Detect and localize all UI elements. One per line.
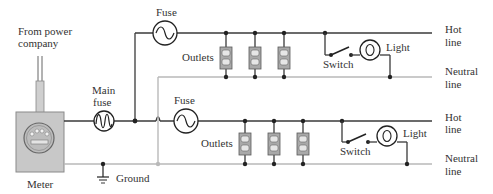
junction-dot: [133, 119, 138, 124]
fuse-top-icon: [153, 21, 177, 45]
outlets-top-label: Outlets: [182, 51, 214, 63]
from-power-label-1: From power: [18, 25, 72, 37]
ground-label: Ground: [116, 172, 150, 184]
outlets-bottom-label: Outlets: [201, 137, 233, 149]
switch-bottom-icon: [340, 119, 377, 144]
main-fuse-icon: [94, 111, 114, 131]
light-bottom-label: Light: [403, 127, 427, 139]
ground-icon: [97, 162, 109, 183]
neutral-line-bottom-label-2: line: [445, 165, 462, 177]
outlet-icon: [249, 31, 261, 79]
fuse-bottom-label: Fuse: [174, 94, 195, 106]
fuse-top-label: Fuse: [156, 6, 177, 18]
switch-top-label: Switch: [323, 58, 354, 70]
switch-bottom-label: Switch: [340, 145, 371, 157]
light-top-label: Light: [386, 41, 410, 53]
outlet-icon: [268, 119, 280, 166]
outlet-icon: [297, 119, 309, 166]
service-drop: [36, 56, 44, 113]
switch-top-icon: [323, 31, 360, 57]
main-fuse-label-2: fuse: [93, 96, 111, 108]
electric-meter-icon: [16, 112, 64, 172]
neutral-junction-dot: [156, 162, 160, 166]
neutral-line-bottom-label-1: Neutral: [445, 152, 478, 164]
outlet-icon: [220, 31, 232, 79]
outlet-icon: [278, 31, 290, 79]
main-fuse-label-1: Main: [92, 84, 116, 96]
neutral-line-top-label-2: line: [445, 78, 462, 90]
neutral-line-top-label-1: Neutral: [445, 65, 478, 77]
from-power-label-2: company: [18, 37, 59, 49]
fuse-bottom-icon: [174, 109, 198, 133]
household-wiring-diagram: From power company Meter Main fuse Groun: [0, 0, 493, 194]
hot-line-top-label-2: line: [445, 36, 462, 48]
hot-line-bottom-label-1: Hot: [445, 111, 462, 123]
outlet-icon: [239, 119, 251, 166]
meter-label: Meter: [27, 178, 54, 190]
hot-line-bottom-label-2: line: [445, 123, 462, 135]
hot-line-top-label-1: Hot: [445, 23, 462, 35]
